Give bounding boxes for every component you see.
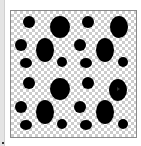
- pattern-dot: [80, 120, 92, 130]
- pattern-dot: [57, 57, 67, 67]
- pattern-dot: [15, 39, 27, 51]
- pattern-dot: [74, 101, 86, 113]
- pattern-dot: [23, 77, 35, 89]
- pattern-dot: [23, 16, 35, 28]
- pattern-dot: [36, 38, 54, 62]
- resize-mark: [2, 142, 4, 144]
- pattern-dot: [57, 119, 67, 129]
- pattern-dot: [74, 39, 86, 51]
- pattern-dot: [96, 38, 114, 62]
- pattern-dot: [20, 120, 32, 130]
- panel-side-strip: [0, 0, 5, 146]
- pattern-dot: [20, 58, 32, 68]
- pattern-dot: [110, 16, 128, 38]
- pattern-dot: [15, 101, 27, 113]
- pattern-dot: [50, 78, 70, 100]
- pattern-dot: [118, 119, 128, 129]
- pattern-dot: [96, 100, 114, 124]
- pattern-dot: [118, 57, 128, 67]
- pattern-dot: [36, 100, 54, 124]
- pattern-dot: [80, 58, 92, 68]
- mouse-cursor-icon: [117, 87, 120, 91]
- pattern-dot: [82, 77, 94, 89]
- pattern-preview[interactable]: [10, 10, 137, 138]
- pattern-dot: [82, 16, 94, 28]
- pattern-dot: [50, 16, 70, 38]
